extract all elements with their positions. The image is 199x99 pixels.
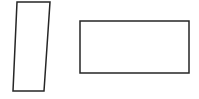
shapes-svg: [0, 0, 199, 99]
figure-canvas: [0, 0, 199, 99]
canvas-background: [0, 0, 199, 99]
